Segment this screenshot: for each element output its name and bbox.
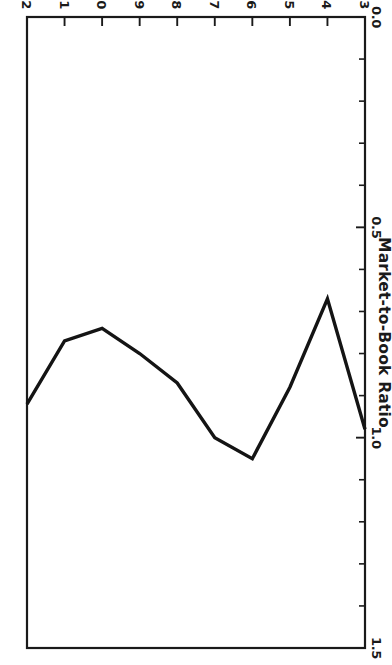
- x-tick-label: 1976: [244, 0, 259, 9]
- x-tick-label: 1977: [207, 0, 222, 9]
- y-axis-title: Market-to-Book Ratio: [375, 237, 392, 428]
- y-tick-label: 1.0: [369, 427, 384, 449]
- data-series-line: [27, 299, 365, 459]
- y-tick-label: 0.0: [369, 6, 384, 28]
- line-chart-svg: 1973197419751976197719781979198019811982…: [0, 0, 392, 665]
- x-tick-label: 1981: [57, 0, 72, 9]
- rotated-chart-container: 1973197419751976197719781979198019811982…: [0, 0, 392, 665]
- y-tick-label: 0.5: [369, 216, 384, 238]
- x-tick-label: 1979: [132, 0, 147, 9]
- plot-area-wrapper: 1973197419751976197719781979198019811982…: [0, 0, 392, 665]
- x-tick-label: 1978: [169, 0, 184, 9]
- x-tick-label: 1982: [19, 0, 34, 9]
- x-axis-tick-labels: 1973197419751976197719781979198019811982: [19, 0, 372, 9]
- y-axis-ticks: [356, 17, 365, 648]
- x-axis-ticks: [27, 17, 365, 26]
- x-tick-label: 1980: [94, 0, 109, 9]
- x-tick-label: 1975: [282, 0, 297, 9]
- chart-figure: 1973197419751976197719781979198019811982…: [0, 0, 392, 665]
- y-tick-label: 1.5: [369, 637, 384, 659]
- x-tick-label: 1974: [319, 0, 334, 9]
